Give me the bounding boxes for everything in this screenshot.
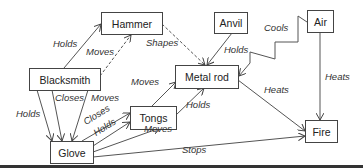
edge-label-holds: Holds	[186, 99, 210, 110]
edge-label-heats: Heats	[264, 84, 289, 95]
edge-label-heats: Heats	[325, 71, 350, 82]
edge-label-holds: Holds	[16, 108, 40, 119]
node-fire: Fire	[305, 120, 338, 143]
node-hammer: Hammer	[101, 12, 163, 35]
node-blacksmith: Blacksmith	[29, 68, 101, 91]
node-anvil: Anvil	[214, 12, 248, 34]
edge-label-shapes: Shapes	[146, 37, 178, 48]
node-air: Air	[307, 10, 334, 33]
edge-label-holds: Holds	[224, 44, 248, 55]
edge-label-moves: Moves	[86, 46, 114, 57]
edge-label-cools: Cools	[264, 22, 288, 33]
edge-label-holds: Holds	[53, 38, 77, 49]
edge-label-moves: Moves	[144, 123, 172, 134]
edge-label-closes: Closes	[55, 92, 84, 103]
edge-label-stops: Stops	[182, 144, 206, 155]
concept-diagram: Hammer Anvil Air Blacksmith Metal rod To…	[0, 0, 363, 168]
node-metal-rod: Metal rod	[175, 65, 239, 89]
edge-label-moves: Moves	[131, 76, 159, 87]
node-glove: Glove	[50, 141, 94, 164]
bottom-border	[0, 165, 363, 168]
